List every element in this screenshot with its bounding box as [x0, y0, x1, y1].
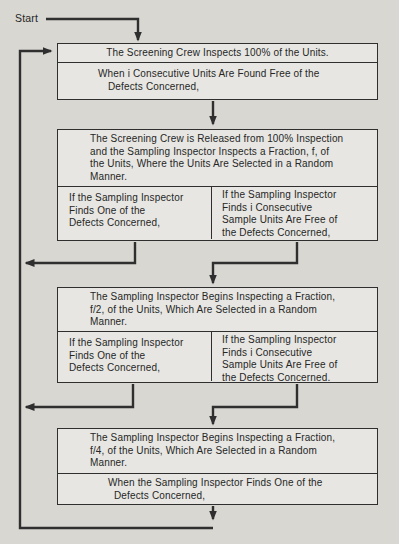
box3-defect-free-text: If the Sampling Inspector Finds i Consec…: [212, 332, 377, 381]
box-sampling-fraction-f4: The Sampling Inspector Begins Inspecting…: [57, 428, 378, 505]
box1-inspect-text: The Screening Crew Inspects 100% of the …: [58, 44, 377, 63]
arrow-box3-defect-to-feedback: [26, 384, 133, 407]
box3-defect-found-text: If the Sampling Inspector Finds One of t…: [58, 332, 212, 381]
box1-event-text: When i Consecutive Units Are Found Free …: [58, 63, 377, 100]
arrow-box3-to-box4: [213, 384, 297, 424]
box2-defect-found-text: If the Sampling Inspector Finds One of t…: [58, 187, 212, 239]
box4-event-text: When the Sampling Inspector Finds One of…: [58, 474, 377, 503]
box2-defect-free-text: If the Sampling Inspector Finds i Consec…: [212, 187, 377, 239]
box2-main-text: The Screening Crew is Released from 100%…: [58, 130, 377, 187]
start-label: Start: [15, 12, 38, 24]
arrow-box2-to-box3: [213, 242, 297, 283]
box-screening-inspection: The Screening Crew Inspects 100% of the …: [57, 43, 378, 100]
box-sampling-fraction-f2: The Sampling Inspector Begins Inspecting…: [57, 287, 378, 383]
box3-main-text: The Sampling Inspector Begins Inspecting…: [58, 288, 377, 332]
box-sampling-fraction-f: The Screening Crew is Released from 100%…: [57, 129, 378, 241]
flowchart-page: Start The Screening Crew Inspects 100% o…: [0, 0, 399, 544]
arrow-box2-defect-to-feedback: [26, 242, 135, 263]
arrow-start-to-box1: [46, 19, 138, 40]
box4-main-text: The Sampling Inspector Begins Inspecting…: [58, 429, 377, 474]
